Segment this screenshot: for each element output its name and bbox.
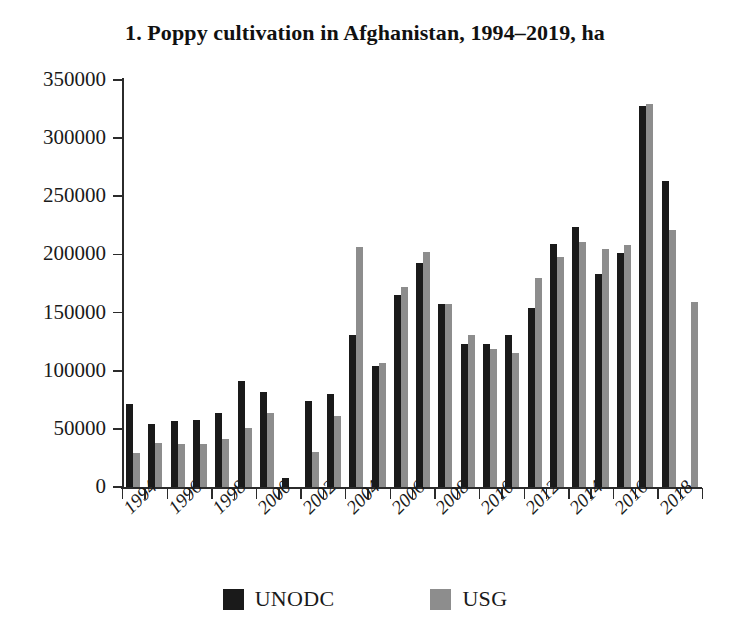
y-axis-label: 100000: [43, 360, 106, 381]
bar-usg-2008: [445, 304, 452, 487]
y-axis-tick: [113, 79, 122, 81]
bar-usg-1999: [245, 428, 252, 487]
bar-unodc-2018: [662, 181, 669, 487]
chart-figure: 1. Poppy cultivation in Afghanistan, 199…: [0, 0, 730, 629]
bar-unodc-1999: [238, 381, 245, 487]
bar-unodc-2000: [260, 392, 267, 487]
bar-unodc-2012: [528, 308, 535, 487]
bar-unodc-2003: [327, 394, 334, 487]
bar-usg-1994: [133, 453, 140, 487]
bar-unodc-2014: [572, 227, 579, 487]
bar-usg-1998: [222, 439, 229, 487]
legend-label-usg: USG: [462, 586, 507, 612]
bar-usg-2017: [646, 104, 653, 487]
y-axis-label: 300000: [43, 127, 106, 148]
legend-swatch-usg: [430, 589, 451, 610]
bar-usg-1997: [200, 444, 207, 487]
bar-usg-2012: [535, 278, 542, 487]
bar-usg-2005: [379, 363, 386, 487]
bar-unodc-2008: [438, 304, 445, 487]
bar-usg-2004: [356, 247, 363, 487]
bar-usg-1995: [155, 443, 162, 487]
bar-usg-2009: [468, 335, 475, 487]
bar-usg-2003: [334, 416, 341, 487]
y-axis-label: 250000: [43, 185, 106, 206]
y-axis-tick: [113, 195, 122, 197]
bar-unodc-2007: [416, 263, 423, 487]
bar-unodc-1995: [148, 424, 155, 487]
bar-unodc-2002: [305, 401, 312, 487]
x-axis-tick: [657, 488, 658, 499]
bar-usg-2000: [267, 413, 274, 487]
chart-title: 1. Poppy cultivation in Afghanistan, 199…: [0, 20, 730, 46]
bar-usg-2019: [691, 302, 698, 487]
bar-unodc-2017: [639, 106, 646, 487]
y-axis-tick: [113, 486, 122, 488]
bar-unodc-2013: [550, 244, 557, 487]
y-axis-tick: [113, 312, 122, 314]
bar-unodc-1996: [171, 421, 178, 487]
bar-unodc-2009: [461, 344, 468, 487]
bar-usg-2014: [579, 242, 586, 487]
bar-usg-1996: [178, 444, 185, 487]
bar-unodc-2001: [282, 478, 289, 487]
legend-entry-usg: USG: [430, 586, 507, 612]
bar-usg-2013: [557, 257, 564, 487]
bar-usg-2002: [312, 452, 319, 487]
bar-usg-2016: [624, 245, 631, 487]
bar-unodc-2011: [505, 335, 512, 487]
bar-unodc-2005: [372, 366, 379, 487]
bar-unodc-1994: [126, 404, 133, 487]
y-axis-label: 200000: [43, 243, 106, 264]
bar-unodc-2004: [349, 335, 356, 487]
bar-usg-2018: [669, 230, 676, 487]
y-axis-label: 50000: [54, 418, 107, 439]
bar-usg-2006: [401, 287, 408, 487]
y-axis-tick: [113, 370, 122, 372]
bar-usg-2011: [512, 353, 519, 487]
y-axis-label: 0: [96, 476, 107, 497]
bars-container: [122, 80, 702, 487]
bar-unodc-2015: [595, 274, 602, 487]
bar-usg-2010: [490, 349, 497, 487]
y-axis-label: 350000: [43, 69, 106, 90]
y-axis-tick: [113, 254, 122, 256]
y-axis-tick: [113, 428, 122, 430]
legend-label-unodc: UNODC: [255, 586, 335, 612]
y-axis-tick: [113, 137, 122, 139]
x-axis-tick: [300, 488, 301, 499]
y-axis-label: 150000: [43, 302, 106, 323]
bar-usg-2015: [602, 249, 609, 487]
legend-swatch-unodc: [223, 589, 244, 610]
bar-unodc-1998: [215, 413, 222, 487]
bar-unodc-1997: [193, 420, 200, 487]
bar-unodc-2010: [483, 344, 490, 487]
bar-usg-2007: [423, 252, 430, 487]
bar-unodc-2016: [617, 253, 624, 487]
x-axis-tick: [702, 488, 703, 499]
bar-unodc-2006: [394, 295, 401, 487]
legend-entry-unodc: UNODC: [223, 586, 335, 612]
chart-legend: UNODCUSG: [0, 586, 730, 612]
